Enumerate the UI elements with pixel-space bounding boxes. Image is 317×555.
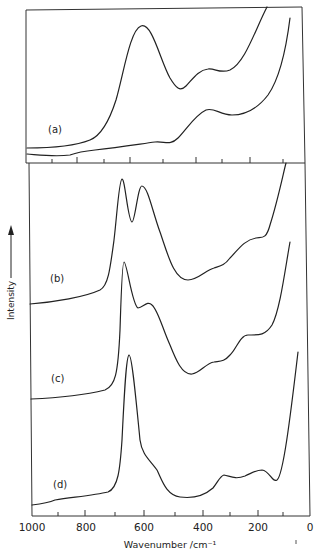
curve-d [32, 352, 298, 505]
panel-a-frame [26, 7, 305, 163]
tick-label-600: 600 [134, 521, 154, 533]
panel-bcd-frame [29, 163, 310, 516]
label-b: (b) [50, 273, 64, 284]
intensity-arrow-icon [8, 225, 14, 235]
tick-label-1000: 1000 [19, 521, 46, 533]
x-axis-tick-labels: 1000 800 600 400 200 0 [19, 521, 314, 533]
panel-a-ticks [52, 157, 283, 163]
tick-label-800: 800 [76, 521, 96, 533]
label-d: (d) [53, 479, 67, 490]
label-c: (c) [51, 373, 64, 384]
raman-spectra-figure: 1000 800 600 400 200 0 Wavenumber /cm⁻¹ … [0, 0, 317, 555]
curve-b [30, 163, 286, 304]
tick-label-0: 0 [307, 521, 314, 533]
label-a: (a) [48, 124, 62, 135]
curve-a-upper [27, 7, 267, 148]
curve-a-lower [27, 18, 290, 156]
tick-label-400: 400 [193, 521, 213, 533]
curve-c [31, 242, 290, 399]
y-axis-label-group: Intensity [6, 225, 16, 320]
x-axis-label: Wavenumber /cm⁻¹ [124, 539, 217, 550]
x-axis-ticks [58, 510, 283, 516]
tick-label-200: 200 [248, 521, 268, 533]
y-axis-label: Intensity [6, 280, 16, 320]
